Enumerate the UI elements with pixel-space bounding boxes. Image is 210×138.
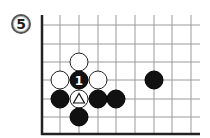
black-stone (89, 90, 107, 108)
white-stone (89, 71, 107, 89)
go-board: 1 (0, 0, 210, 138)
black-stone: 1 (70, 71, 88, 89)
black-stone (70, 108, 88, 126)
white-stone (70, 53, 88, 71)
black-stone (145, 71, 163, 89)
move-number: 1 (75, 74, 83, 88)
white-stone (51, 71, 69, 89)
black-stone (107, 90, 125, 108)
stones-layer: 1 (51, 53, 163, 126)
white-stone (70, 90, 88, 108)
black-stone (51, 90, 69, 108)
